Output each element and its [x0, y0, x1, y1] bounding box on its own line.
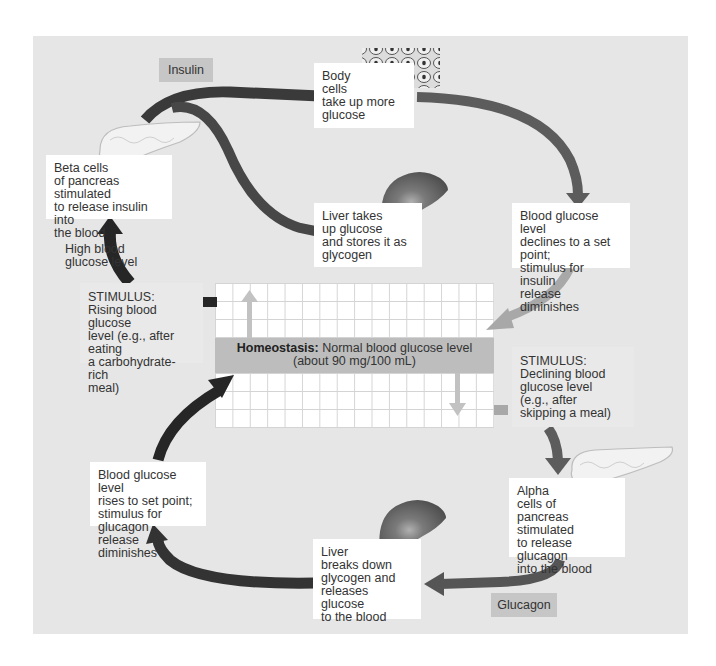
glucagon-tag: Glucagon [491, 593, 557, 617]
liver-takes-up-box: Liver takes up glucose and stores it as … [314, 203, 422, 267]
high-blood-glucose-label: High blood glucose level [65, 243, 137, 269]
body-cells-box: Body cells take up more glucose [314, 63, 414, 128]
beta-cells-box: Beta cells of pancreas stimulated to rel… [46, 155, 172, 219]
alpha-cells-box: Alpha cells of pancreas stimulated to re… [509, 478, 625, 557]
homeostasis-label: Homeostasis: [237, 341, 319, 355]
homeostasis-band: Homeostasis: Normal blood glucose level … [215, 338, 494, 373]
liver-breaks-down-box: Liver breaks down glycogen and releases … [313, 539, 421, 619]
rises-box: Blood glucose level rises to set point; … [90, 462, 206, 526]
insulin-tag: Insulin [159, 58, 213, 82]
stimulus-declining-box: STIMULUS: Declining blood glucose level … [512, 347, 634, 427]
declines-box: Blood glucose level declines to a set po… [512, 203, 630, 268]
homeostasis-description: Normal blood glucose level [319, 341, 473, 355]
homeostasis-value: (about 90 mg/100 mL) [293, 354, 416, 368]
stimulus-rising-box: STIMULUS: Rising blood glucose level (e.… [80, 283, 203, 363]
